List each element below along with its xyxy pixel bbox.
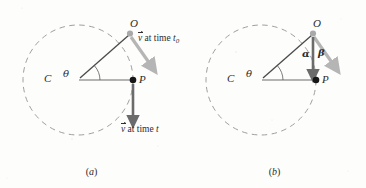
panel-a-graphics <box>0 0 183 188</box>
radius-co-line <box>80 35 129 78</box>
panel-a-caption-close: ) <box>94 166 97 177</box>
velocity-t-text: at time <box>125 124 156 134</box>
point-o-marker <box>127 30 133 36</box>
panel-b-caption: (b) <box>183 166 366 177</box>
label-velocity-at-t0: v at time t0 <box>138 33 179 45</box>
vector-v-symbol-t: v <box>121 124 125 134</box>
physics-diagram-figure: C θ O P v at time t0 v at time t (a) <box>0 0 366 188</box>
label-angle-theta: θ <box>246 68 252 79</box>
label-point-o: O <box>313 17 321 29</box>
panel-a: C θ O P v at time t0 v at time t (a) <box>0 0 183 188</box>
label-point-p: P <box>139 73 146 85</box>
label-center-c: C <box>227 72 234 84</box>
velocity-t-time: t <box>156 124 159 134</box>
label-angle-alpha: α <box>302 48 310 59</box>
angle-theta-arc <box>278 66 284 80</box>
panel-b-graphics <box>183 0 366 188</box>
velocity-t0-text: at time <box>142 33 173 43</box>
label-angle-theta: θ <box>63 68 69 79</box>
panel-b: C θ O P α β (b) <box>183 0 366 188</box>
angle-theta-arc <box>95 66 101 80</box>
label-center-c: C <box>44 72 51 84</box>
point-p-marker <box>130 77 137 84</box>
vector-v-symbol-t0: v <box>138 33 142 43</box>
label-point-o: O <box>130 17 138 29</box>
point-o-marker <box>310 30 316 36</box>
label-angle-beta: β <box>318 47 325 58</box>
velocity-t0-subscript: 0 <box>176 37 180 45</box>
point-p-marker <box>313 77 320 84</box>
panel-a-caption: (a) <box>0 166 183 177</box>
label-point-p: P <box>322 73 329 85</box>
label-velocity-at-t: v at time t <box>121 124 159 134</box>
panel-b-caption-close: ) <box>277 166 280 177</box>
